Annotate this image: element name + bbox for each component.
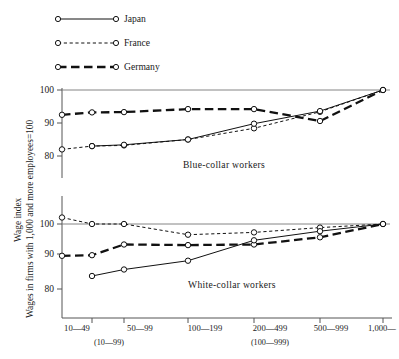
x-axis-sublabel-0: (10—99): [94, 338, 124, 347]
x-axis-label-1: 50—99: [127, 323, 153, 333]
legend-swatch-germany-marker-left: [55, 64, 60, 69]
legend-item-japan[interactable]: Japan: [55, 13, 146, 24]
top-panel-series-japan: [89, 87, 385, 149]
data-point-japan-blue-collar-5: [380, 87, 385, 92]
bottom-panel-ylabel-100: 100: [40, 219, 55, 229]
series-line-germany-white-collar: [62, 224, 383, 256]
legend-item-germany[interactable]: Germany: [55, 61, 159, 72]
data-point-germany-white-collar-0: [59, 253, 64, 258]
data-point-japan-white-collar-2: [185, 258, 190, 263]
x-axis-label-2: 100—199: [188, 323, 222, 333]
data-point-france-white-collar-3: [185, 232, 190, 237]
x-axis-label-3: 200—499: [253, 323, 287, 333]
data-point-germany-blue-collar-4: [251, 106, 256, 111]
data-point-france-white-collar-2: [121, 221, 126, 226]
top-panel-ylabel-90: 90: [45, 118, 55, 128]
data-point-france-blue-collar-0: [59, 147, 64, 152]
panel-white-collar: 100 90 80 White-collar workers: [40, 196, 392, 318]
x-axis-label-5: 1,000—: [368, 323, 396, 333]
data-point-japan-blue-collar-1: [121, 142, 126, 147]
data-point-japan-white-collar-5: [380, 221, 385, 226]
legend-swatch-japan-marker-left: [55, 16, 60, 21]
panel-blue-collar: 100 90 80 Blue-collar workers: [40, 85, 390, 178]
legend-label-germany: Germany: [124, 61, 160, 72]
series-line-france-blue-collar: [62, 90, 383, 149]
legend-label-japan: Japan: [124, 13, 146, 24]
legend-swatch-japan-marker-right: [113, 16, 118, 21]
legend-item-france[interactable]: France: [55, 37, 150, 48]
data-point-germany-blue-collar-5: [317, 118, 322, 123]
y-axis-title-wages-in-firms: Wages in firms with 1,000 and more emplo…: [25, 119, 35, 318]
data-point-germany-blue-collar-1: [89, 110, 94, 115]
bottom-panel-series-germany: [59, 221, 385, 258]
y-axis-title-wage-index: Wage index: [13, 197, 23, 242]
data-point-germany-blue-collar-3: [185, 106, 190, 111]
data-point-france-white-collar-1: [89, 221, 94, 226]
top-panel-label: Blue-collar workers: [183, 159, 265, 170]
x-axis-label-4: 500—999: [314, 323, 348, 333]
top-panel-points-japan: [89, 87, 385, 149]
data-point-germany-blue-collar-2: [121, 109, 126, 114]
series-line-japan-blue-collar: [92, 90, 383, 146]
legend-label-france: France: [124, 37, 150, 48]
data-point-japan-blue-collar-3: [251, 121, 256, 126]
bottom-panel-ylabel-80: 80: [45, 284, 55, 294]
bottom-panel-ylabel-90: 90: [45, 249, 55, 259]
data-point-germany-blue-collar-0: [59, 112, 64, 117]
top-panel-series-france: [59, 87, 385, 152]
data-point-germany-white-collar-3: [185, 242, 190, 247]
data-point-japan-white-collar-3: [251, 238, 256, 243]
top-panel-ylabel-80: 80: [45, 151, 55, 161]
legend: Japan France Germany: [55, 13, 159, 72]
data-point-france-white-collar-0: [59, 215, 64, 220]
legend-swatch-france-marker-left: [55, 40, 60, 45]
series-line-france-white-collar: [62, 218, 383, 235]
series-line-germany-blue-collar: [62, 90, 383, 121]
data-point-japan-white-collar-4: [317, 229, 322, 234]
legend-swatch-france-marker-right: [113, 40, 118, 45]
x-axis-sublabel-1: (100—999): [251, 338, 289, 347]
top-panel-ylabel-100: 100: [40, 85, 55, 95]
x-axis-label-0: 10—49: [64, 323, 90, 333]
legend-swatch-germany-marker-right: [113, 64, 118, 69]
data-point-france-white-collar-4: [251, 230, 256, 235]
series-line-japan-white-collar: [92, 224, 383, 276]
data-point-japan-white-collar-1: [121, 267, 126, 272]
bottom-panel-points-japan: [89, 221, 385, 278]
data-point-germany-white-collar-2: [121, 242, 126, 247]
data-point-germany-white-collar-5: [317, 235, 322, 240]
data-point-japan-blue-collar-4: [317, 108, 322, 113]
bottom-panel-label: White-collar workers: [188, 279, 276, 290]
data-point-japan-white-collar-0: [89, 273, 94, 278]
data-point-japan-blue-collar-0: [89, 143, 94, 148]
bottom-panel-points-germany: [59, 221, 385, 258]
top-panel-points-france: [59, 87, 385, 152]
figure-container: Japan France Germany Wage index Wages in…: [0, 0, 399, 359]
bottom-panel-series-japan: [89, 221, 385, 278]
data-point-germany-white-collar-1: [89, 253, 94, 258]
data-point-japan-blue-collar-2: [185, 137, 190, 142]
wage-index-line-chart: Japan France Germany Wage index Wages in…: [0, 0, 399, 359]
x-axis-labels: 10—49 50—99 100—199 200—499 500—999 1,00…: [64, 323, 396, 347]
